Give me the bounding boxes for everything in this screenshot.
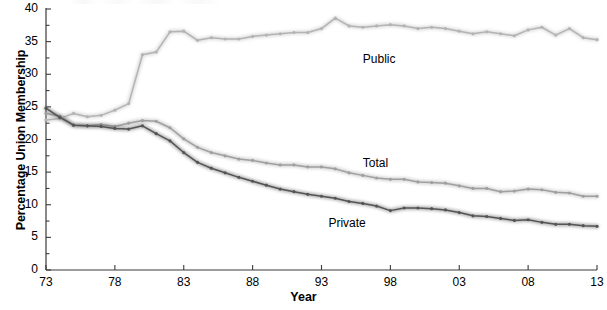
data-point [292, 31, 295, 34]
data-point [210, 36, 213, 39]
data-point [100, 114, 103, 117]
data-point [527, 187, 530, 190]
data-point [458, 211, 461, 214]
data-point [44, 112, 47, 115]
y-axis-tick-label: 0 [16, 262, 38, 276]
series-halo [46, 113, 597, 196]
data-point [361, 202, 364, 205]
x-axis-tick-label: 03 [439, 275, 479, 289]
series-annotation-private: Private [328, 216, 365, 230]
data-point [471, 214, 474, 217]
data-point [155, 120, 158, 123]
data-point [127, 127, 130, 130]
data-point [58, 116, 61, 119]
data-point [513, 34, 516, 37]
data-point [223, 171, 226, 174]
data-point [141, 124, 144, 127]
data-point [444, 208, 447, 211]
data-point [416, 180, 419, 183]
data-point [113, 127, 116, 130]
y-axis-tick-label: 10 [16, 197, 38, 211]
data-point [403, 206, 406, 209]
y-axis-tick-label: 15 [16, 164, 38, 178]
data-point [582, 224, 585, 227]
x-axis-tick-label: 13 [577, 275, 607, 289]
union-membership-chart: Percentage Union Membership Year 0510152… [0, 0, 607, 310]
data-point [458, 184, 461, 187]
data-point [499, 32, 502, 35]
series-line [46, 113, 597, 196]
data-point [361, 174, 364, 177]
data-point [485, 215, 488, 218]
data-point [265, 184, 268, 187]
data-point [196, 161, 199, 164]
data-point [306, 31, 309, 34]
data-point [499, 217, 502, 220]
data-point [582, 195, 585, 198]
x-axis-tick-label: 08 [508, 275, 548, 289]
data-point [223, 37, 226, 40]
data-point [127, 102, 130, 105]
series-total [44, 112, 598, 198]
data-point [595, 225, 598, 228]
data-point [485, 187, 488, 190]
y-axis-tick-label: 35 [16, 34, 38, 48]
data-point [527, 218, 530, 221]
x-axis-tick-label: 78 [95, 275, 135, 289]
data-point [306, 193, 309, 196]
data-point [320, 195, 323, 198]
data-point [279, 163, 282, 166]
data-point [485, 30, 488, 33]
data-point [444, 182, 447, 185]
data-point [223, 154, 226, 157]
data-point [44, 118, 47, 121]
data-point [237, 176, 240, 179]
series-annotation-total: Total [363, 156, 388, 170]
data-point [320, 27, 323, 30]
data-point [210, 151, 213, 154]
data-point [430, 207, 433, 210]
data-point [582, 36, 585, 39]
data-point [141, 53, 144, 56]
data-point [251, 35, 254, 38]
data-point [471, 187, 474, 190]
data-point [251, 159, 254, 162]
data-point [389, 23, 392, 26]
x-axis-tick-label: 73 [26, 275, 66, 289]
data-point [540, 188, 543, 191]
data-point [334, 17, 337, 20]
data-point [251, 180, 254, 183]
x-axis-tick-label: 88 [233, 275, 273, 289]
series-public [44, 17, 598, 122]
data-point [210, 167, 213, 170]
x-axis-tick-label: 98 [370, 275, 410, 289]
x-axis-tick-label: 83 [164, 275, 204, 289]
data-point [86, 115, 89, 118]
data-point [527, 28, 530, 31]
data-point [72, 112, 75, 115]
data-point [86, 124, 89, 127]
data-point [554, 223, 557, 226]
data-point [540, 26, 543, 29]
x-axis-tick-label: 93 [302, 275, 342, 289]
data-point [389, 209, 392, 212]
data-point [100, 125, 103, 128]
data-point [292, 190, 295, 193]
data-point [72, 124, 75, 127]
data-point [568, 191, 571, 194]
data-point [568, 27, 571, 30]
data-point [513, 189, 516, 192]
data-point [513, 219, 516, 222]
data-point [347, 24, 350, 27]
data-point [403, 178, 406, 181]
series-annotation-public: Public [363, 52, 396, 66]
data-point [265, 34, 268, 37]
data-point [168, 139, 171, 142]
data-point [375, 176, 378, 179]
data-point [375, 24, 378, 27]
y-axis-tick-label: 30 [16, 66, 38, 80]
data-point [416, 27, 419, 30]
data-point [196, 146, 199, 149]
data-point [196, 39, 199, 42]
data-point [595, 38, 598, 41]
